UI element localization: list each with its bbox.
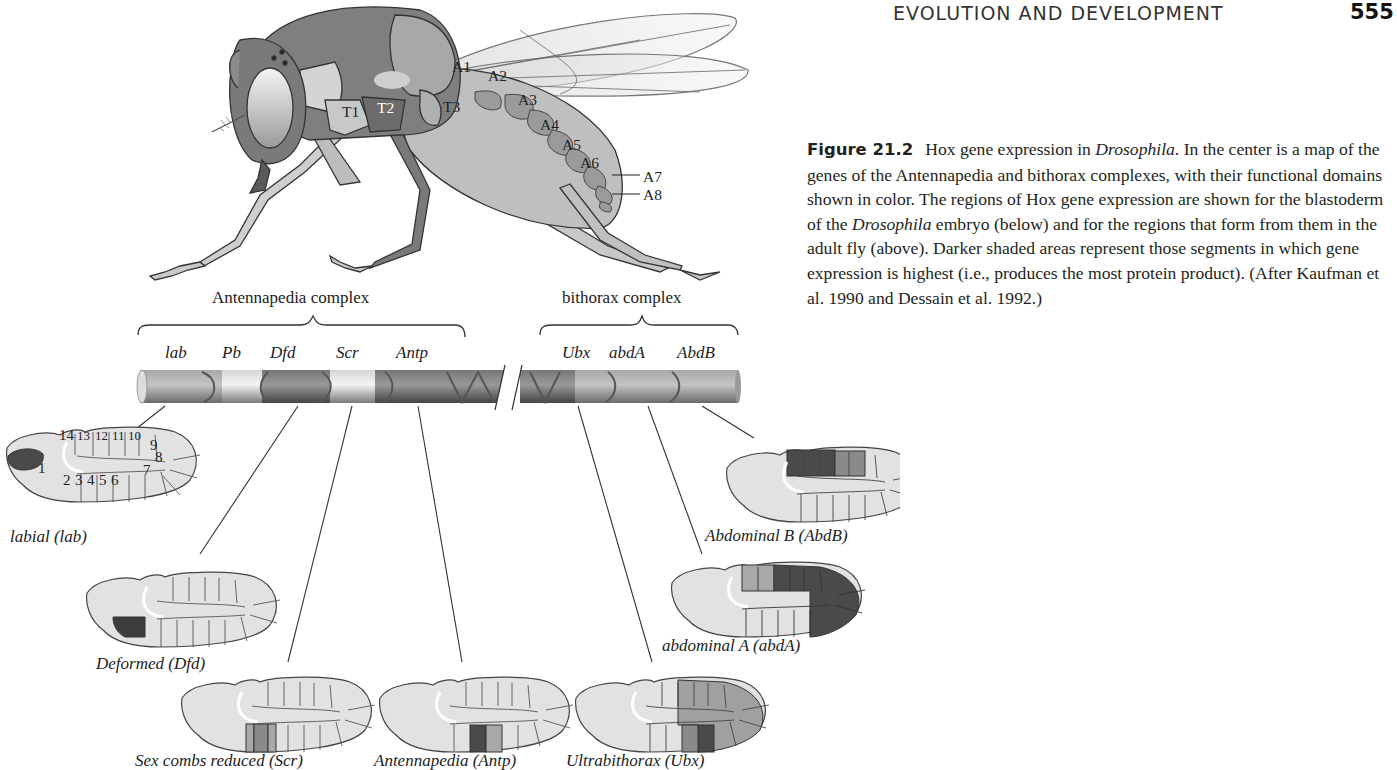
gene-pb: Pb [221, 343, 241, 362]
label-a1: A1 [452, 58, 471, 75]
svg-text:3: 3 [75, 472, 83, 488]
embryo-deformed [87, 572, 280, 647]
chrom-segment-abdb [680, 370, 738, 403]
svg-text:14: 14 [59, 427, 75, 443]
embryo-label-deformed: Deformed (Dfd) [95, 654, 205, 673]
svg-text:5: 5 [99, 472, 107, 488]
svg-text:7: 7 [143, 462, 151, 478]
chromosome-map [137, 365, 741, 410]
gene-abda: abdA [609, 343, 646, 362]
bithorax-complex-label: bithorax complex [562, 288, 682, 307]
label-a5: A5 [562, 136, 581, 153]
hox-figure: T1 T2 T3 A1 A2 A3 A4 A5 A6 A7 A8 Antenna… [0, 0, 900, 770]
label-a6: A6 [580, 154, 599, 171]
label-a2: A2 [488, 67, 507, 84]
label-a4: A4 [540, 116, 559, 133]
chrom-segment-dfd [262, 370, 330, 403]
label-a7: A7 [643, 168, 662, 185]
running-head: EVOLUTION AND DEVELOPMENT [893, 2, 1224, 24]
svg-text:8: 8 [155, 449, 163, 465]
svg-text:4: 4 [87, 472, 95, 488]
svg-text:11: 11 [112, 428, 125, 443]
embryo-scr [182, 677, 375, 752]
chrom-segment-antp [375, 370, 435, 403]
antennapedia-complex-label: Antennapedia complex [212, 288, 370, 307]
embryo-label-scr: Sex combs reduced (Scr) [135, 751, 303, 770]
embryo-label-antp: Antennapedia (Antp) [373, 751, 516, 770]
label-t3: T3 [443, 98, 460, 115]
chrom-segment-scr [330, 370, 375, 403]
gene-lab: lab [165, 343, 187, 362]
gene-antp: Antp [395, 343, 428, 362]
gene-ubx: Ubx [562, 343, 591, 362]
svg-text:12: 12 [95, 428, 108, 443]
caption-title: Hox gene expression in [925, 139, 1095, 159]
label-a8: A8 [643, 186, 662, 203]
embryo-abda [672, 562, 865, 637]
figure-illustration: T1 T2 T3 A1 A2 A3 A4 A5 A6 A7 A8 Antenna… [0, 0, 900, 770]
embryo-abdb [727, 447, 900, 522]
caption-organism: Drosophila [1095, 139, 1175, 159]
embryo-label-abdb: Abdominal B (AbdB) [704, 526, 848, 545]
label-t2: T2 [377, 99, 394, 116]
embryo-label-abda: abdominal A (abdA) [662, 636, 801, 655]
svg-text:13: 13 [77, 428, 90, 443]
embryo-label-labial: labial (lab) [10, 527, 87, 546]
adult-fly [150, 7, 748, 280]
page-number: 555 [1350, 0, 1394, 24]
chrom-segment-pb [222, 370, 262, 403]
gene-abdb: AbdB [676, 343, 715, 362]
gene-scr: Scr [336, 343, 359, 362]
svg-text:2: 2 [63, 472, 71, 488]
embryo-labial: 14 13 12 11 10 9 8 7 1 2 3 4 5 6 [7, 427, 200, 502]
complex-braces [138, 316, 738, 337]
gene-labels: lab Pb Dfd Scr Antp Ubx abdA AbdB [165, 343, 715, 362]
svg-text:10: 10 [128, 428, 141, 443]
embryo-label-ubx: Ultrabithorax (Ubx) [566, 751, 705, 770]
label-t1: T1 [342, 103, 359, 120]
label-a3: A3 [518, 91, 537, 108]
gene-dfd: Dfd [269, 343, 296, 362]
svg-text:6: 6 [111, 472, 119, 488]
svg-text:1: 1 [38, 460, 46, 476]
embryo-antp [380, 677, 573, 752]
chrom-segment-abda [625, 370, 680, 403]
embryo-ubx [576, 677, 769, 752]
